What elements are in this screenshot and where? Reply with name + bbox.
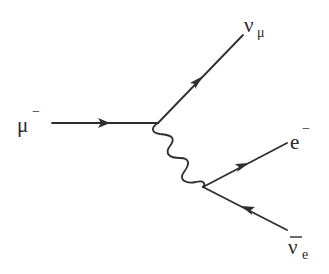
svg-text:e: e — [302, 247, 308, 262]
svg-text:e: e — [290, 130, 299, 154]
svg-text:μ: μ — [17, 113, 28, 137]
svg-text:ν: ν — [288, 235, 298, 259]
svg-text:−: − — [302, 121, 310, 136]
label-electron-antineutrino: ν e — [288, 235, 308, 262]
label-muon: μ − — [17, 104, 40, 137]
svg-text:μ: μ — [257, 25, 265, 40]
svg-text:−: − — [32, 104, 40, 119]
electron-antineutrino-arrow-icon — [241, 206, 255, 215]
electron-arrow-icon — [235, 163, 249, 172]
label-muon-neutrino: ν μ — [244, 13, 265, 40]
feynman-diagram: μ − ν μ e − ν e — [0, 0, 329, 274]
svg-text:ν: ν — [244, 13, 254, 37]
w-boson-propagator — [153, 123, 204, 187]
label-electron: e − — [290, 121, 310, 154]
